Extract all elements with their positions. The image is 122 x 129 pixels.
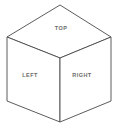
cube-label-left: LEFT: [22, 73, 38, 79]
isometric-cube-figure: TOP LEFT RIGHT: [0, 0, 122, 129]
cube-label-top: TOP: [55, 26, 68, 32]
cube-label-right: RIGHT: [72, 73, 91, 79]
cube-drawing: [0, 0, 122, 129]
